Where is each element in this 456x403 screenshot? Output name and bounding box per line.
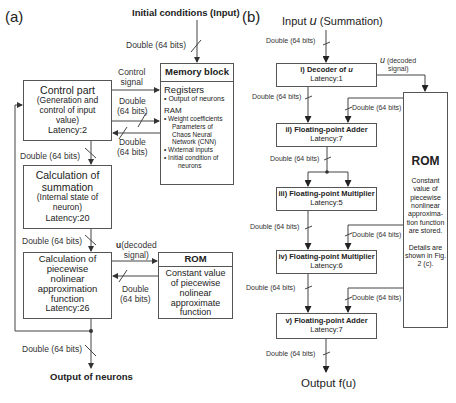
control-signal-label: Controlsignal xyxy=(118,68,145,88)
latency: Latency:5 xyxy=(277,199,376,208)
summation-desc: (Internal state of neuron) xyxy=(24,193,111,213)
registers-item: • Output of neurons xyxy=(164,95,233,102)
wire-label: Double (64 bits) xyxy=(352,294,401,302)
wire-label: Double (64 bits) xyxy=(250,223,299,231)
wire-label: Double (64 bits) xyxy=(22,237,82,247)
stage-adder-v: v) Floating-point Adder Latency:7 xyxy=(276,313,377,339)
registers-label: Registers xyxy=(164,84,233,95)
rom-details: Details are shown in Fig. 2 (c). xyxy=(404,244,447,269)
wire-label: Double (64 bits) xyxy=(352,231,401,239)
control-part-desc: (Generation and control of input value) xyxy=(24,96,111,125)
memory-block: Memory block Registers • Output of neuro… xyxy=(160,63,234,185)
double-label: Double(64 bits) xyxy=(117,138,148,158)
output-title-b: Output f(u) xyxy=(301,377,356,390)
latency: Latency:20 xyxy=(24,213,111,223)
latency: Latency:7 xyxy=(277,326,376,335)
output-title: Output of neurons xyxy=(50,372,133,383)
double-label: Double(64 bits) xyxy=(120,285,151,305)
rom-box-a: ROM Constant value of piecewise nolinear… xyxy=(158,252,233,319)
input-title: Initial conditions (Input) xyxy=(132,8,240,19)
stage-multiplier-iv: iv) Floating-point Multiplier Latency:6 xyxy=(276,250,377,274)
u-decoded-label: u (decoded signal) xyxy=(380,55,416,73)
panel-b-label: (b) xyxy=(242,8,260,25)
wire-label: Double (64 bits) xyxy=(126,41,186,51)
stage-multiplier-iii: iii) Floating-point Multiplier Latency:5 xyxy=(276,187,377,211)
summation-title: Calculation of summation xyxy=(24,169,111,193)
rom-title: ROM xyxy=(404,155,447,169)
ram-label: RAM xyxy=(164,106,233,115)
wire-label: Double (64 bits) xyxy=(266,350,315,358)
summation-box: Calculation of summation (Internal state… xyxy=(23,165,112,229)
stage-decoder: i) Decoder of u Latency:1 xyxy=(276,63,377,87)
rom-box-b: ROM Constant value of piecewise nonlinea… xyxy=(403,92,448,328)
input-title-b: Input u (Summation) xyxy=(282,14,383,29)
rom-desc: Constant value of piecewise nolinear app… xyxy=(159,269,232,318)
rom-desc: Constant value of piecewise nonlinear ap… xyxy=(404,177,447,236)
latency: Latency:26 xyxy=(24,304,111,313)
ram-item: • Weight coefficients Parameters of Chao… xyxy=(164,115,233,170)
wire-label: Double (64 bits) xyxy=(270,155,319,163)
control-part-box: Control part (Generation and control of … xyxy=(23,80,112,141)
u-decoded-label: u(decoded signal) xyxy=(116,241,157,261)
piecewise-title: Calculation of piecewise nolinear approx… xyxy=(24,254,111,304)
junction-dot xyxy=(325,170,329,174)
latency: Latency:7 xyxy=(277,135,376,144)
double-label: Double(64 bits) xyxy=(117,97,148,117)
stage-adder-ii: ii) Floating-point Adder Latency:7 xyxy=(276,123,377,147)
wire-label: Double (64 bits) xyxy=(252,93,301,101)
rom-title: ROM xyxy=(159,253,232,267)
panel-a-label: (a) xyxy=(5,8,23,25)
wire-label: Double (64 bits) xyxy=(352,104,401,112)
wire-label: Double (64 bits) xyxy=(266,37,315,45)
wire-label: Double (64 bits) xyxy=(246,284,295,292)
latency: Latency:1 xyxy=(277,75,376,84)
latency: Latency:6 xyxy=(277,262,376,271)
wire-label: Double (64 bits) xyxy=(22,345,82,355)
piecewise-box: Calculation of piecewise nolinear approx… xyxy=(23,252,112,319)
memory-block-title: Memory block xyxy=(161,64,233,82)
latency: Latency:2 xyxy=(24,125,111,135)
junction-dot xyxy=(89,329,93,333)
wire-label: Double (64 bits) xyxy=(20,152,80,162)
